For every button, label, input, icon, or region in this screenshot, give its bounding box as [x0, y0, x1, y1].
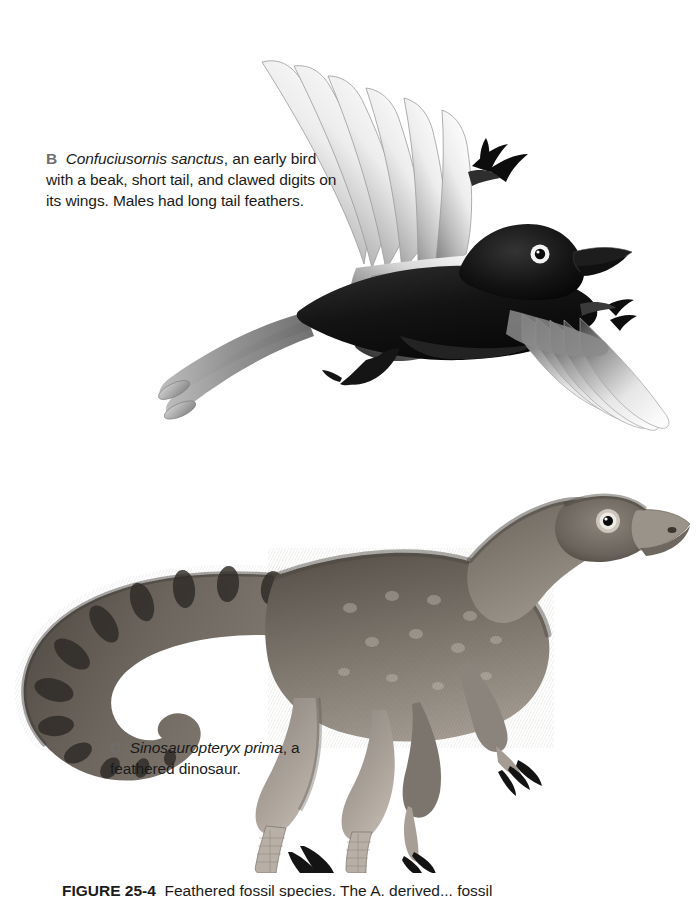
- bird-head: [459, 224, 632, 300]
- figure-caption: FIGURE 25-4 Feathered fossil species. Th…: [62, 880, 698, 897]
- species-name-c: Sinosauropteryx prima: [130, 739, 283, 756]
- caption-panel-b: B Confuciusornis sanctus, an early bird …: [46, 148, 346, 211]
- illustration-confuciusornis: [150, 18, 698, 448]
- panel-letter-c: C: [110, 739, 126, 756]
- caption-panel-c: C Sinosauropteryx prima, a feathered din…: [110, 737, 320, 779]
- bird-feet: [322, 348, 400, 385]
- figure-caption-text: Feathered fossil species. The A. derived…: [165, 882, 493, 897]
- dino-foot-claws: [288, 846, 334, 873]
- bird-tail-streamers: [156, 312, 314, 423]
- illustration-sinosauropteryx: [0, 448, 698, 873]
- species-name-b: Confuciusornis sanctus: [66, 150, 224, 167]
- dino-neck-head: [467, 496, 690, 623]
- bird-lower-wing-claws: [606, 299, 637, 331]
- figure-number-label: FIGURE 25-4: [62, 882, 160, 897]
- panel-letter-b: B: [46, 150, 62, 167]
